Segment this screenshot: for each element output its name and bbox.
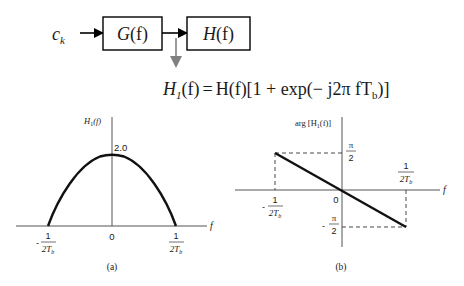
figure-canvas: ck G(f) H(f) H1(f)=H(f)[1 + exp(− j2π fT…: [0, 0, 464, 286]
origin-label: 0: [109, 231, 114, 242]
xtick-right: 1 2Tb: [169, 231, 184, 255]
svg-text:-: -: [262, 202, 265, 212]
plot-a-magnitude: H1(f) 2.0 f 0 - 1 2Tb 1 2Tb (a): [16, 116, 214, 273]
svg-text:1: 1: [45, 231, 50, 241]
block-g: G(f): [103, 17, 162, 50]
equation: H1(f)=H(f)[1 + exp(− j2π fTb)]: [162, 79, 389, 101]
svg-text:2Tb: 2Tb: [269, 208, 282, 219]
plot-b-phase: arg [H1(f)] f 0 π 2 - π 2 - 1 2Tb 1 2Tb …: [235, 117, 447, 273]
y-axis-label: H1(f): [83, 116, 101, 127]
panel-label-a: (a): [107, 262, 118, 273]
x-axis-label: f: [210, 220, 214, 231]
x-axis-label: f: [443, 184, 447, 195]
peak-value-label: 2.0: [114, 142, 127, 153]
svg-text:2: 2: [348, 153, 353, 163]
block-diagram: ck G(f) H(f): [52, 17, 250, 68]
input-signal-label: ck: [52, 24, 66, 46]
svg-text:1: 1: [173, 231, 178, 241]
svg-text:2Tb: 2Tb: [42, 244, 55, 255]
svg-text:2Tb: 2Tb: [170, 244, 183, 255]
svg-text:G(f): G(f): [117, 24, 148, 45]
ytick-neg-pi-over-2: - π 2: [322, 213, 339, 236]
svg-text:H(f): H(f): [202, 24, 234, 45]
origin-label: 0: [333, 194, 338, 205]
y-axis-label: arg [H1(f)]: [295, 118, 331, 129]
tap-arrow-down-icon: [170, 38, 182, 68]
svg-text:-: -: [322, 221, 325, 231]
svg-text:1: 1: [403, 161, 408, 171]
svg-text:1: 1: [272, 195, 277, 205]
xtick-right: 1 2Tb: [398, 161, 414, 185]
block-h: H(f): [187, 17, 250, 50]
svg-text:π: π: [349, 140, 354, 150]
xtick-left: - 1 2Tb: [262, 195, 283, 219]
svg-text:-: -: [36, 238, 39, 248]
xtick-left: - 1 2Tb: [36, 231, 56, 255]
panel-label-b: (b): [335, 262, 346, 273]
svg-text:2Tb: 2Tb: [400, 174, 413, 185]
ytick-pos-pi-over-2: π 2: [346, 140, 356, 163]
svg-text:2: 2: [331, 226, 336, 236]
svg-text:π: π: [332, 213, 337, 223]
